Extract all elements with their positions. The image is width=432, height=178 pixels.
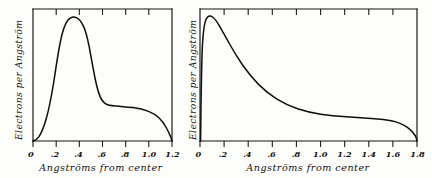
right-xtick-1: .2	[219, 149, 228, 159]
right-xtick-9: 1.8	[410, 149, 425, 159]
left-xtick-5: 1.0	[142, 149, 157, 159]
right-top-ticks	[224, 9, 393, 15]
left-xtick-0: 0	[28, 149, 34, 159]
left-x-axis-title: Angströms from center	[38, 162, 163, 173]
left-axes-frame	[33, 9, 172, 141]
right-chart-figure: Electrons per Angström	[186, 0, 432, 178]
right-xtick-2: .4	[243, 149, 252, 159]
right-chart-svg: Electrons per Angström	[186, 0, 432, 178]
left-xtick-2: .4	[74, 149, 83, 159]
figure-page: Electrons per Angström	[0, 0, 432, 178]
right-y-axis-title: Electrons per Angström	[187, 20, 198, 141]
right-x-axis-title: Angströms from center	[245, 162, 370, 173]
right-axes-frame	[200, 9, 417, 141]
right-density-curve	[201, 16, 417, 141]
left-y-axis-title: Electrons per Angström	[13, 20, 24, 141]
left-xtick-1: .2	[51, 149, 60, 159]
right-xtick-6: 1.2	[337, 149, 352, 159]
left-density-curve	[33, 17, 172, 141]
left-xtick-3: .6	[97, 149, 106, 159]
left-xtick-6: 1.2	[165, 149, 180, 159]
right-xtick-3: .6	[267, 149, 276, 159]
right-xtick-0: 0	[196, 149, 202, 159]
right-xtick-4: .8	[292, 149, 301, 159]
right-xtick-7: 1.4	[362, 149, 377, 159]
left-chart-svg: Electrons per Angström	[0, 0, 196, 178]
right-x-tick-labels: 0 .2 .4 .6 .8 1.0 1.2 1.4 1.6 1.8	[196, 149, 425, 159]
left-top-ticks	[56, 9, 149, 15]
left-xtick-4: .8	[121, 149, 130, 159]
right-bottom-ticks	[200, 141, 417, 147]
right-xtick-5: 1.0	[313, 149, 328, 159]
left-chart-figure: Electrons per Angström	[0, 0, 196, 178]
left-x-tick-labels: 0 .2 .4 .6 .8 1.0 1.2	[28, 149, 180, 159]
left-bottom-ticks	[33, 141, 172, 147]
right-xtick-8: 1.6	[386, 149, 401, 159]
